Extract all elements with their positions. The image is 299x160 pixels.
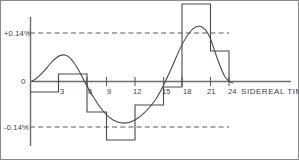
x-tick-label-12: 12	[133, 87, 142, 96]
y-label-origin: 0	[21, 77, 26, 86]
x-tick-label-21: 21	[207, 87, 216, 96]
x-tick-label-18: 18	[183, 87, 192, 96]
y-label-positive: +0.14%	[4, 29, 31, 38]
x-tick-label-15: 15	[162, 87, 171, 96]
chart-figure: +0.14% -0.14% 0 3 6 9 12 15 18 21 24 SID…	[0, 0, 299, 160]
x-tick-label-3: 3	[60, 87, 64, 96]
y-label-negative: -0.14%	[4, 123, 29, 132]
series-step-histogram	[30, 4, 229, 140]
x-tick-label-24: 24	[228, 87, 237, 96]
x-tick-label-6: 6	[88, 87, 92, 96]
figure-frame	[1, 1, 299, 160]
x-tick-label-9: 9	[107, 87, 111, 96]
series-fitted-curve	[32, 26, 233, 123]
plot-canvas: +0.14% -0.14% 0 3 6 9 12 15 18 21 24 SID…	[0, 0, 299, 160]
x-axis-title: SIDEREAL TIME	[241, 87, 299, 96]
